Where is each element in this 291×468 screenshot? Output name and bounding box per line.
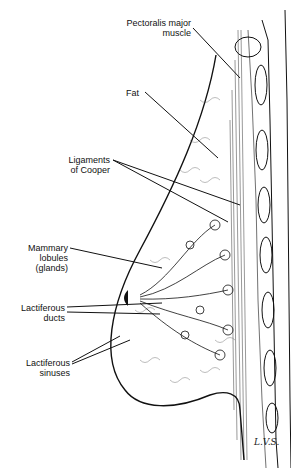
label-line: ducts bbox=[10, 313, 65, 323]
label-fat: Fat bbox=[126, 88, 139, 98]
label-line: sinuses bbox=[15, 368, 70, 378]
label-line: Pectoralis major bbox=[115, 18, 191, 28]
label-pectoralis-major: Pectoralis major muscle bbox=[115, 18, 191, 38]
fat-tissue bbox=[135, 98, 235, 383]
label-line: Lactiferous bbox=[10, 303, 65, 313]
label-ligaments-of-cooper: Ligaments of Cooper bbox=[58, 155, 110, 175]
label-line: Ligaments bbox=[58, 155, 110, 165]
label-line: (glands) bbox=[20, 263, 68, 273]
label-mammary-lobules: Mammary lobules (glands) bbox=[20, 243, 68, 273]
label-line: Fat bbox=[126, 88, 139, 98]
nipple bbox=[124, 290, 128, 306]
leader-lines bbox=[67, 28, 240, 364]
label-lactiferous-sinuses: Lactiferous sinuses bbox=[15, 358, 70, 378]
chest-wall bbox=[248, 10, 291, 468]
artist-signature: L.V.S. bbox=[254, 437, 279, 447]
label-line: Lactiferous bbox=[15, 358, 70, 368]
label-line: Mammary bbox=[20, 243, 68, 253]
label-line: of Cooper bbox=[58, 165, 110, 175]
breast-anatomy-diagram bbox=[0, 0, 291, 468]
mammary-lobules bbox=[140, 220, 233, 360]
label-line: lobules bbox=[20, 253, 68, 263]
label-lactiferous-ducts: Lactiferous ducts bbox=[10, 303, 65, 323]
breast-outline bbox=[111, 55, 244, 460]
label-line: muscle bbox=[115, 28, 191, 38]
